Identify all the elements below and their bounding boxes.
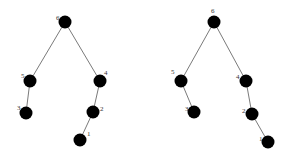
tree-node	[87, 106, 100, 119]
node-label: 6	[211, 7, 215, 15]
right-tree: 653421	[171, 7, 275, 149]
tree-node	[74, 134, 87, 147]
tree-edge-6-4	[65, 22, 100, 81]
tree-node	[175, 75, 188, 88]
tree-edge-6-5	[181, 22, 214, 81]
left-tree: 653421	[17, 14, 108, 147]
node-label: 3	[185, 105, 189, 113]
node-label: 2	[100, 105, 104, 113]
tree-node	[188, 106, 201, 119]
tree-edge-6-4	[214, 22, 246, 81]
node-label: 2	[242, 107, 246, 115]
tree-node	[20, 107, 33, 120]
tree-node	[246, 108, 259, 121]
tree-node	[208, 16, 221, 29]
node-label: 4	[104, 69, 108, 77]
tree-node	[24, 75, 37, 88]
tree-node	[262, 136, 275, 149]
tree-node	[59, 16, 72, 29]
node-label: 4	[236, 73, 240, 81]
node-label: 1	[259, 135, 263, 143]
tree-edge-6-5	[30, 22, 65, 81]
tree-diagram-canvas: 653421653421	[0, 0, 291, 158]
edges-layer	[26, 22, 268, 142]
node-label: 1	[87, 130, 91, 138]
node-label: 3	[17, 104, 21, 112]
node-label: 6	[56, 14, 60, 22]
node-label: 5	[171, 68, 175, 76]
node-label: 5	[21, 72, 25, 80]
tree-node	[240, 75, 253, 88]
nodes-layer: 653421653421	[17, 7, 275, 149]
